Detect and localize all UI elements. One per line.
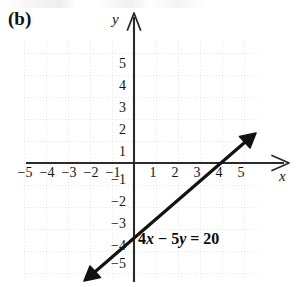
x-tick-label-1: 1 xyxy=(146,166,160,180)
x-tick-label-2: 2 xyxy=(168,166,182,180)
y-axis-label: y xyxy=(112,12,119,27)
equation-coef-x: 4 xyxy=(138,230,146,247)
equation-var-x: x xyxy=(146,230,154,247)
y-tick-label-5: 5 xyxy=(104,57,126,71)
y-tick-label--4: −4 xyxy=(100,239,126,253)
y-tick-label--3: −3 xyxy=(100,217,126,231)
graph-figure: (b) y x −5 −4 xyxy=(0,0,296,287)
x-tick-label--4: −4 xyxy=(37,166,57,180)
x-tick-label--5: −5 xyxy=(15,166,35,180)
x-tick-label--3: −3 xyxy=(59,166,79,180)
equation-coef-y: 5 xyxy=(171,230,179,247)
y-tick-label--1: −1 xyxy=(100,173,126,187)
equation-annotation: 4x − 5y = 20 xyxy=(138,230,219,248)
y-tick-label--2: −2 xyxy=(100,195,126,209)
y-tick-label-3: 3 xyxy=(104,101,126,115)
x-tick-label-4: 4 xyxy=(212,166,226,180)
y-tick-label-1: 1 xyxy=(104,145,126,159)
y-tick-label--5: −5 xyxy=(100,257,126,271)
x-tick-label-5: 5 xyxy=(234,166,248,180)
x-tick-label-3: 3 xyxy=(190,166,204,180)
equation-rhs: 20 xyxy=(203,230,219,247)
x-tick-label--2: −2 xyxy=(81,166,101,180)
x-axis-label: x xyxy=(279,169,286,184)
equation-minus: − xyxy=(154,230,171,247)
y-tick-label-4: 4 xyxy=(104,79,126,93)
equation-equals: = xyxy=(186,230,203,247)
y-tick-label-2: 2 xyxy=(104,123,126,137)
